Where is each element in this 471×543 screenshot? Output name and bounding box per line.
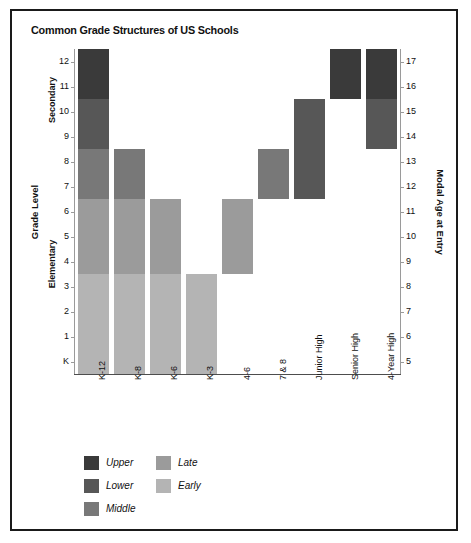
y-tick-label: 8 (49, 157, 69, 166)
y2-tick-label: 17 (406, 57, 426, 66)
y-tick-label: 4 (49, 257, 69, 266)
y2-tick-label: 13 (406, 157, 426, 166)
y2-tick (401, 287, 404, 288)
legend-label: Late (178, 457, 197, 468)
y-tick (71, 112, 74, 113)
x-tick-label: 4-6 (242, 367, 252, 380)
x-tick-label: Senior High (350, 333, 360, 380)
bar-k-12[interactable] (78, 49, 109, 374)
y2-tick-label: 10 (406, 232, 426, 241)
band-late (222, 199, 253, 274)
y2-tick (401, 262, 404, 263)
y-tick-label: 5 (49, 232, 69, 241)
y-tick-label: 10 (49, 107, 69, 116)
band-early (186, 274, 217, 374)
bar-senior-high[interactable] (330, 49, 361, 374)
y-tick-label: 11 (49, 82, 69, 91)
y2-axis-title: Modal Age at Entry (435, 169, 446, 255)
chart-title: Common Grade Structures of US Schools (31, 24, 238, 36)
y-tick-label: 2 (49, 307, 69, 316)
x-tick-label: K-6 (169, 366, 179, 380)
band-lower (366, 99, 397, 149)
band-upper (330, 49, 361, 99)
y-tick (71, 237, 74, 238)
plot-area: K123456789101112567891011121314151617 (75, 49, 400, 374)
y2-tick-label: 14 (406, 132, 426, 141)
legend-label: Upper (106, 457, 133, 468)
y-tick-label: 3 (49, 282, 69, 291)
y-tick (71, 162, 74, 163)
y-axis-title: Grade Level (29, 185, 40, 239)
y2-tick-label: 7 (406, 307, 426, 316)
band-middle (78, 149, 109, 199)
y-tick-label: 6 (49, 207, 69, 216)
y-tick-label: 7 (49, 182, 69, 191)
y2-tick (401, 237, 404, 238)
x-tick-label: K-8 (133, 366, 143, 380)
y2-tick (401, 62, 404, 63)
band-upper (366, 49, 397, 99)
bar-4-6[interactable] (222, 49, 253, 374)
y2-tick (401, 337, 404, 338)
y2-tick-label: 8 (406, 282, 426, 291)
y2-tick (401, 187, 404, 188)
y2-tick (401, 112, 404, 113)
y2-tick-label: 6 (406, 332, 426, 341)
y-tick (71, 312, 74, 313)
y2-tick (401, 312, 404, 313)
legend-label: Early (178, 480, 201, 491)
band-middle (114, 149, 145, 199)
bar-k-3[interactable] (186, 49, 217, 374)
y-tick (71, 337, 74, 338)
bar-4-year-high[interactable] (366, 49, 397, 374)
legend-label: Lower (106, 480, 133, 491)
band-late (150, 199, 181, 274)
bar-7-8[interactable] (258, 49, 289, 374)
legend-swatch-lower (84, 479, 99, 493)
band-early (150, 274, 181, 374)
x-tick-label: Junior High (314, 334, 324, 380)
legend-swatch-middle (84, 502, 99, 516)
y-tick (71, 187, 74, 188)
legend-swatch-late (156, 456, 171, 470)
y2-tick-label: 12 (406, 182, 426, 191)
band-lower (78, 99, 109, 149)
y-tick-label: 1 (49, 332, 69, 341)
y2-tick (401, 87, 404, 88)
bar-k-8[interactable] (114, 49, 145, 374)
y2-tick-label: 16 (406, 82, 426, 91)
y-axis-line (74, 49, 75, 374)
y2-tick-label: 11 (406, 207, 426, 216)
bar-junior-high[interactable] (294, 49, 325, 374)
y2-tick-label: 9 (406, 257, 426, 266)
y2-tick (401, 162, 404, 163)
band-lower (294, 99, 325, 199)
band-middle (258, 149, 289, 199)
y-tick (71, 362, 74, 363)
y2-tick-label: 15 (406, 107, 426, 116)
bar-k-6[interactable] (150, 49, 181, 374)
y2-tick-label: 5 (406, 357, 426, 366)
y2-tick (401, 212, 404, 213)
legend-swatch-upper (84, 456, 99, 470)
y-tick (71, 62, 74, 63)
figure-canvas: Common Grade Structures of US Schools Gr… (0, 0, 471, 543)
legend-label: Middle (106, 503, 135, 514)
band-upper (78, 49, 109, 99)
band-late (78, 199, 109, 274)
y-tick-label: K (49, 357, 69, 366)
y-tick (71, 287, 74, 288)
chart-legend: UpperLowerMiddleLateEarly (84, 455, 304, 527)
y-tick (71, 262, 74, 263)
y2-tick (401, 137, 404, 138)
band-early (78, 274, 109, 374)
y-tick (71, 212, 74, 213)
legend-swatch-early (156, 479, 171, 493)
x-tick-label: K-3 (205, 366, 215, 380)
y-tick-label: 12 (49, 57, 69, 66)
x-tick-label: K-12 (97, 361, 107, 380)
y-tick (71, 137, 74, 138)
x-tick-label: 4-Year High (386, 333, 396, 380)
y2-tick (401, 362, 404, 363)
x-tick-label: 7 & 8 (278, 359, 288, 380)
